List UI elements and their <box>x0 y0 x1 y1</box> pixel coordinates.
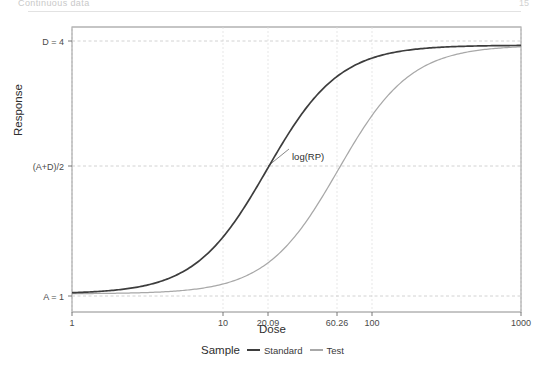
plot-canvas: D = 4 (A+D)/2 A = 1 1 10 20.09 60.26 100… <box>0 0 545 366</box>
y-tick-label-bottom: A = 1 <box>43 292 64 302</box>
x-axis-ticks <box>72 312 521 316</box>
y-tick-label-mid: (A+D)/2 <box>33 162 64 172</box>
legend: Sample Standard Test <box>0 344 545 356</box>
dose-response-chart: D = 4 (A+D)/2 A = 1 1 10 20.09 60.26 100… <box>0 0 545 366</box>
legend-entry-test[interactable]: Test <box>310 345 344 356</box>
y-axis-title: Response <box>12 84 24 136</box>
legend-label-standard: Standard <box>264 345 303 356</box>
legend-swatch-standard-icon <box>247 349 260 351</box>
legend-entry-standard[interactable]: Standard <box>247 345 303 356</box>
x-axis-title: Dose <box>0 323 545 335</box>
y-axis-ticks <box>68 41 72 296</box>
legend-label-test: Test <box>327 345 344 356</box>
legend-title: Sample <box>201 344 240 356</box>
legend-swatch-test-icon <box>310 349 323 351</box>
log-rp-annotation: log(RP) <box>292 151 324 162</box>
y-tick-label-top: D = 4 <box>42 37 64 47</box>
plot-panel-border <box>72 27 521 312</box>
